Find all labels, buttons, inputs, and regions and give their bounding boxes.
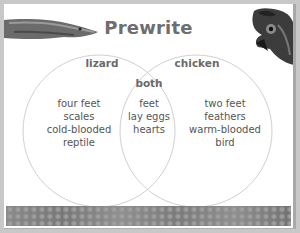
both-item: hearts bbox=[124, 123, 174, 136]
lizard-label: lizard bbox=[72, 57, 132, 69]
chicken-item: feathers bbox=[180, 110, 270, 123]
lizard-item: four feet bbox=[34, 97, 124, 110]
chicken-item: bird bbox=[180, 136, 270, 149]
chicken-label: chicken bbox=[167, 57, 227, 69]
texture-pattern bbox=[6, 206, 291, 226]
chicken-item: two feet bbox=[180, 97, 270, 110]
both-items: feet lay eggs hearts bbox=[124, 97, 174, 136]
both-item: lay eggs bbox=[124, 110, 174, 123]
lizard-items: four feet scales cold-blooded reptile bbox=[34, 97, 124, 149]
chicken-item: warm-blooded bbox=[180, 123, 270, 136]
chicken-items: two feet feathers warm-blooded bird bbox=[180, 97, 270, 149]
lizard-item: reptile bbox=[34, 136, 124, 149]
slide: Prewrite lizard chicken both four feet s… bbox=[4, 4, 296, 229]
scales-texture-banner bbox=[6, 206, 291, 226]
lizard-item: cold-blooded bbox=[34, 123, 124, 136]
both-label: both bbox=[129, 77, 169, 89]
both-item: feet bbox=[124, 97, 174, 110]
lizard-item: scales bbox=[34, 110, 124, 123]
